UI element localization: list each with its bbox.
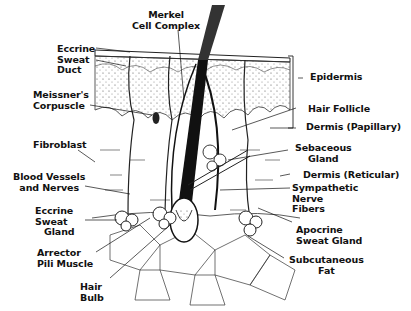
label-apocrine-sweat-gland: Apocrine Sweat Gland [296,225,362,246]
label-meissners-corpuscle: Meissner's Corpuscle [33,90,89,111]
label-line: Hair Follicle [308,104,370,115]
label-merkel-cell-complex: Merkel Cell Complex [132,10,200,31]
label-eccrine-sweat-gland: Eccrine Sweat Gland [35,206,75,238]
label-line: Eccrine [35,206,75,217]
label-line: Arrector [37,248,93,259]
label-line: and Nerves [13,183,85,194]
meissners-corpuscle-shape [153,112,160,124]
label-line: Eccrine [57,44,95,55]
label-epidermis: Epidermis [310,72,362,83]
hair-shaft [170,5,225,242]
label-line: Blood Vessels [13,172,85,183]
label-fibroblast: Fibroblast [33,140,86,151]
label-line: Apocrine [296,225,362,236]
label-line: Pili Muscle [37,259,93,270]
label-line: Fibers [292,204,358,215]
label-line: Bulb [80,293,104,304]
label-line: Merkel [132,10,200,21]
label-hair-follicle: Hair Follicle [308,104,370,115]
label-line: Corpuscle [33,101,89,112]
sebaceous-gland [203,145,226,171]
label-blood-vessels-and-nerves: Blood Vessels and Nerves [13,172,85,193]
label-sympathetic-nerve-fibers: Sympathetic Nerve Fibers [292,183,358,215]
label-line: Fibroblast [33,140,86,151]
label-line: Subcutaneous [289,255,364,266]
label-line: Dermis (Reticular) [303,170,399,181]
label-line: Fat [289,266,364,277]
label-line: Hair [80,282,104,293]
label-eccrine-sweat-duct: Eccrine Sweat Duct [57,44,95,76]
label-line: Dermis (Papillary) [306,122,401,133]
label-sebaceous-gland: Sebaceous Gland [295,143,352,164]
label-line: Gland [295,154,352,165]
label-line: Sympathetic [292,183,358,194]
label-hair-bulb: Hair Bulb [80,282,104,303]
label-line: Meissner's [33,90,89,101]
label-line: Duct [57,65,95,76]
label-dermis-reticular: Dermis (Reticular) [303,170,399,181]
label-arrector-pili-muscle: Arrector Pili Muscle [37,248,93,269]
label-line: Sebaceous [295,143,352,154]
label-line: Epidermis [310,72,362,83]
label-dermis-papillary: Dermis (Papillary) [306,122,401,133]
subcutaneous-fat-cells [110,225,295,305]
label-subcutaneous-fat: Subcutaneous Fat [289,255,364,276]
label-line: Sweat Gland [296,236,362,247]
label-line: Gland [35,227,75,238]
label-line: Cell Complex [132,21,200,32]
